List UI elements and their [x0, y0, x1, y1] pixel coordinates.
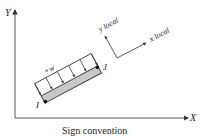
- load-arrow-icon: [91, 54, 97, 65]
- load-arrow-icon: [35, 84, 41, 95]
- node-j-label: J: [103, 62, 108, 72]
- local-x-label: x local: [147, 25, 172, 44]
- load-arrow-icon: [80, 60, 86, 71]
- local-y-label: y local: [96, 15, 121, 34]
- global-y-label: Y: [5, 7, 12, 18]
- sign-convention-diagram: Y X +w I J y local: [0, 0, 200, 137]
- global-x-label: X: [189, 112, 197, 123]
- load-label: +w: [42, 63, 56, 76]
- caption: Sign convention: [62, 125, 127, 136]
- local-x-axis: [117, 43, 146, 58]
- diagram-canvas: Y X +w I J y local: [0, 0, 200, 137]
- node-i-label: I: [35, 100, 40, 110]
- member: +w: [29, 44, 102, 104]
- load-arrow-icon: [46, 78, 52, 89]
- load-arrow-icon: [57, 72, 63, 83]
- local-y-axis: [105, 36, 117, 58]
- local-axes: y local x local: [96, 15, 172, 58]
- load-arrow-icon: [69, 66, 75, 77]
